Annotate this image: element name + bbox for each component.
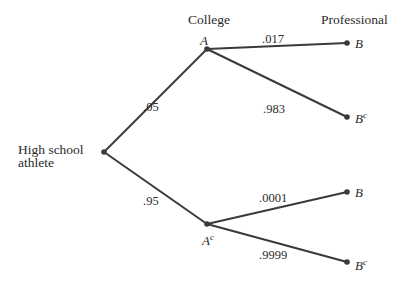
probability-A: .05: [143, 101, 159, 114]
event-A-B-letter: B: [355, 36, 363, 51]
event-Ac-Bc-complement: c: [363, 257, 367, 267]
edge-root-to-Ac: [104, 152, 207, 224]
event-A-Bc-complement: c: [363, 110, 367, 120]
root-label-line2: athlete: [18, 156, 84, 169]
event-label-Ac-Bc: Bc: [355, 259, 367, 272]
node-root: [101, 149, 107, 155]
node-Ac-Bc: [344, 259, 350, 265]
event-Ac-Bc-letter: B: [355, 258, 363, 273]
event-A-Bc-letter: B: [355, 111, 363, 126]
column-header-professional: Professional: [321, 13, 388, 26]
probability-Ac: .95: [143, 195, 159, 208]
event-Ac-letter: A: [202, 233, 210, 248]
probability-Bc-given-Ac: .9999: [259, 249, 287, 262]
event-label-A-Bc: Bc: [355, 112, 367, 125]
probability-B-given-A: .017: [262, 33, 284, 46]
faded-caption-strip: [18, 274, 398, 284]
probability-tree-diagram: College Professional High school athlete…: [0, 0, 400, 284]
node-Ac: [204, 221, 210, 227]
column-header-college: College: [188, 13, 230, 26]
event-label-Ac: Ac: [202, 234, 214, 247]
node-Ac-B: [344, 189, 350, 195]
node-A-Bc: [344, 114, 350, 120]
probability-B-given-Ac: .0001: [259, 192, 287, 205]
event-Ac-B-letter: B: [355, 185, 363, 200]
probability-Bc-given-A: .983: [263, 103, 285, 116]
root-label: High school athlete: [18, 143, 84, 169]
event-label-Ac-B: B: [355, 186, 363, 199]
event-label-A: A: [200, 34, 208, 47]
event-label-A-B: B: [355, 37, 363, 50]
node-A-B: [344, 40, 350, 46]
event-Ac-complement: c: [210, 232, 214, 242]
event-A-letter: A: [200, 33, 208, 48]
